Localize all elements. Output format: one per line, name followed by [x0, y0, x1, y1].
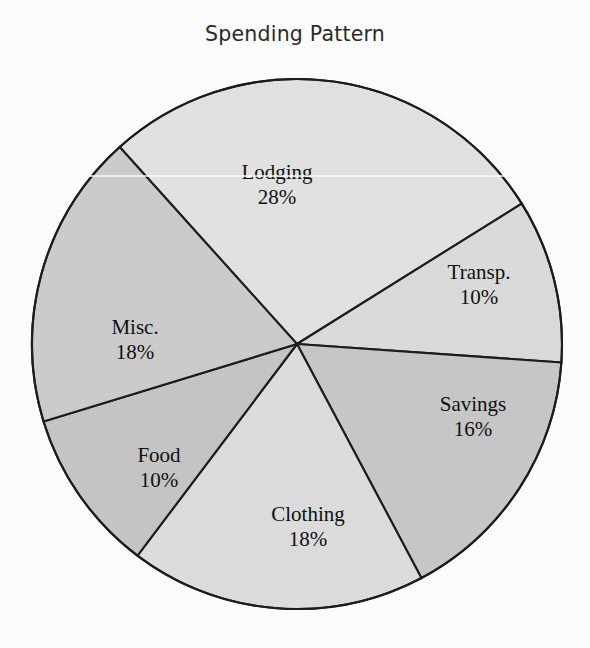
slice-label-name-food: Food: [137, 443, 180, 468]
slice-label-value-lodging: 28%: [241, 185, 312, 210]
slice-label-value-transp: 10%: [448, 285, 511, 310]
pie-chart-figure: Spending Pattern Lodging28%Transp.10%Sav…: [0, 0, 590, 648]
slice-label-lodging: Lodging28%: [241, 160, 312, 210]
slice-label-name-clothing: Clothing: [271, 502, 345, 527]
slice-label-value-savings: 16%: [440, 417, 507, 442]
slice-label-savings: Savings16%: [440, 392, 507, 442]
slice-label-name-lodging: Lodging: [241, 160, 312, 185]
slice-label-transp: Transp.10%: [448, 260, 511, 310]
slice-label-food: Food10%: [137, 443, 180, 493]
slice-label-misc: Misc.18%: [111, 315, 158, 365]
slice-label-name-misc: Misc.: [111, 315, 158, 340]
slice-label-value-misc: 18%: [111, 340, 158, 365]
slice-label-name-savings: Savings: [440, 392, 507, 417]
slice-label-value-food: 10%: [137, 468, 180, 493]
slice-label-name-transp: Transp.: [448, 260, 511, 285]
slice-label-clothing: Clothing18%: [271, 502, 345, 552]
slice-label-value-clothing: 18%: [271, 527, 345, 552]
